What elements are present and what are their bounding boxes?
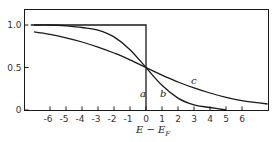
x-tick-label: 2 <box>175 114 181 124</box>
curve-label-b: b <box>160 88 166 99</box>
series-group <box>31 25 268 110</box>
fermi-dirac-chart: -6-5-4-3-2-10123456 00.51.0 abc E − EF <box>0 0 276 142</box>
series-b-line <box>34 25 226 110</box>
x-tick-label: 3 <box>191 114 197 124</box>
x-tick-label: -2 <box>108 114 117 124</box>
x-tick-label: 6 <box>239 114 245 124</box>
y-axis-ticks: 00.51.0 <box>7 20 28 115</box>
x-tick-label: 4 <box>207 114 213 124</box>
series-a-line <box>31 25 146 110</box>
x-axis-ticks: -6-5-4-3-2-10123456 <box>44 107 246 125</box>
curve-label-a: a <box>140 88 146 99</box>
x-tick-label: 1 <box>159 114 165 124</box>
x-tick-label: -3 <box>92 114 101 124</box>
x-tick-label: -4 <box>76 114 85 124</box>
x-tick-label: 5 <box>223 114 229 124</box>
y-tick-label: 0 <box>16 105 22 115</box>
y-tick-label: 1.0 <box>7 20 22 30</box>
x-tick-label: -5 <box>60 114 69 124</box>
series-c-line <box>34 32 268 104</box>
y-tick-label: 0.5 <box>7 63 21 73</box>
x-tick-label: -1 <box>124 114 133 124</box>
curve-label-c: c <box>191 75 197 86</box>
x-axis-label: E − EF <box>135 124 171 138</box>
x-tick-label: -6 <box>44 114 53 124</box>
x-tick-label: 0 <box>143 114 149 124</box>
